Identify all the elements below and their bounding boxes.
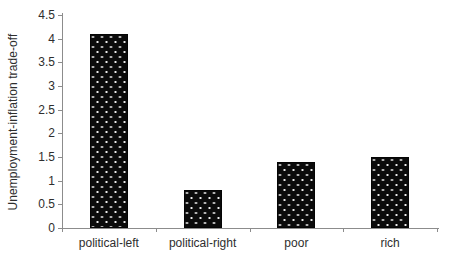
y-tick-label: 4 (21, 33, 55, 45)
x-tick-mark (156, 228, 157, 232)
bar-chart-figure: Unemployment-inflation trade-off 00.511.… (0, 0, 453, 265)
x-tick-mark (250, 228, 251, 232)
x-category-label: political-left (62, 236, 156, 250)
bar-political-right (184, 190, 222, 228)
y-tick-mark (58, 15, 62, 16)
y-tick-label: 1 (21, 175, 55, 187)
y-tick-label: 1.5 (21, 151, 55, 163)
y-tick-label: 3.5 (21, 56, 55, 68)
y-axis-line (62, 13, 63, 229)
y-tick-label: 4.5 (21, 9, 55, 21)
x-category-label: political-right (156, 236, 250, 250)
y-tick-label: 0 (21, 222, 55, 234)
y-tick-mark (58, 157, 62, 158)
y-tick-label: 2.5 (21, 104, 55, 116)
y-tick-mark (58, 204, 62, 205)
x-tick-mark (62, 228, 63, 232)
x-axis-line (62, 228, 439, 229)
y-tick-mark (58, 62, 62, 63)
bar-political-left (90, 34, 128, 228)
bar-poor (277, 162, 315, 228)
y-tick-mark (58, 39, 62, 40)
y-tick-label: 2 (21, 127, 55, 139)
y-tick-mark (58, 181, 62, 182)
x-tick-mark (437, 228, 438, 232)
y-tick-label: 3 (21, 80, 55, 92)
x-category-label: rich (343, 236, 437, 250)
x-tick-mark (343, 228, 344, 232)
bar-rich (371, 157, 409, 228)
y-tick-mark (58, 86, 62, 87)
y-tick-mark (58, 110, 62, 111)
x-category-label: poor (250, 236, 344, 250)
y-tick-label: 0.5 (21, 198, 55, 210)
y-axis-title: Unemployment-inflation trade-off (6, 33, 20, 210)
y-tick-mark (58, 133, 62, 134)
